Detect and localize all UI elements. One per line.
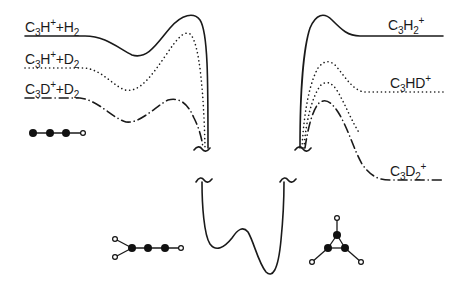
diagram-canvas	[0, 0, 465, 291]
label-c3d-d2: C3D++D2	[25, 80, 79, 100]
curve-c3d-d2	[25, 98, 203, 148]
label-c3h-d2: C3H++D2	[25, 50, 79, 70]
label-c3hd: C3HD+	[390, 74, 431, 94]
structure-linear-c3h	[29, 129, 85, 137]
curve-c3hd-inner	[304, 83, 360, 148]
break-symbol-right-lower	[280, 178, 296, 182]
label-c3d2: C3D2+	[390, 162, 426, 182]
structure-cyclic-c3	[310, 216, 364, 265]
break-symbol-right-upper	[295, 147, 311, 151]
structure-h2ccc	[113, 237, 184, 260]
break-symbol-left-lower	[196, 178, 212, 182]
lower-double-well	[202, 182, 284, 274]
energy-diagram: C3H++H2 C3H++D2 C3D++D2 C3H2+ C3HD+ C3D2…	[0, 0, 465, 291]
label-c3h2: C3H2+	[388, 16, 424, 36]
label-c3h-h2: C3H++H2	[25, 18, 79, 38]
